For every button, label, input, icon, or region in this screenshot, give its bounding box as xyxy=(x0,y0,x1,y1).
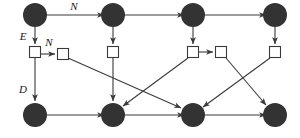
edge-smid2-cbot3 xyxy=(68,58,181,108)
node-square-mid-1[interactable] xyxy=(30,47,41,58)
edge-smid4-cbot2 xyxy=(123,58,188,106)
graph-canvas: N E N D xyxy=(0,0,300,138)
node-circle-bottom-1[interactable] xyxy=(23,103,47,127)
node-square-mid-6[interactable] xyxy=(270,47,281,58)
node-circle-bottom-4[interactable] xyxy=(263,103,287,127)
node-square-mid-5[interactable] xyxy=(216,47,227,58)
node-circle-bottom-2[interactable] xyxy=(101,103,125,127)
edges-vertical-top-to-mid xyxy=(35,27,275,44)
edge-label-d-left: D xyxy=(18,83,27,95)
edges-diagonals xyxy=(68,58,270,108)
node-circle-top-1[interactable] xyxy=(23,3,47,27)
node-circle-top-3[interactable] xyxy=(181,3,205,27)
edge-label-e-left: E xyxy=(19,30,27,42)
nodes-squares-mid xyxy=(30,47,281,60)
edge-label-n-mid: N xyxy=(44,36,53,48)
edge-label-n-top: N xyxy=(69,0,78,12)
node-circle-top-2[interactable] xyxy=(101,3,125,27)
edge-smid6-cbot3 xyxy=(203,58,270,107)
node-square-mid-4[interactable] xyxy=(188,47,199,58)
node-circle-bottom-3[interactable] xyxy=(181,103,205,127)
edges-mid-to-bottom xyxy=(35,58,113,101)
node-square-mid-3[interactable] xyxy=(108,47,119,58)
node-square-mid-2[interactable] xyxy=(58,49,69,60)
node-circle-top-4[interactable] xyxy=(263,3,287,27)
graph-diagram: N E N D xyxy=(0,0,300,138)
